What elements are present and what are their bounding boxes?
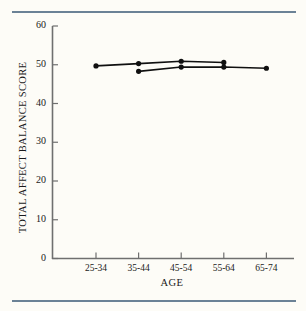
data-point-marker: [264, 66, 269, 71]
series-line: [139, 67, 267, 71]
x-tick-label: 25-34: [73, 263, 119, 273]
data-point-marker: [179, 64, 184, 69]
y-tick-label: 0: [20, 252, 46, 263]
x-tick-label: 55-64: [201, 263, 247, 273]
series-line: [96, 61, 224, 66]
data-point-marker: [221, 64, 226, 69]
figure-container: TOTAL AFFECT BALANCE SCORE AGE 010203040…: [0, 0, 306, 311]
y-tick-label: 40: [20, 97, 46, 108]
y-tick-label: 20: [20, 174, 46, 185]
data-point-marker: [136, 69, 141, 74]
y-tick-label: 50: [20, 58, 46, 69]
x-tick-label: 35-44: [116, 263, 162, 273]
data-series-layer: [93, 59, 269, 74]
data-point-marker: [179, 59, 184, 64]
x-tick-marks: [96, 253, 266, 259]
y-tick-label: 30: [20, 135, 46, 146]
y-tick-label: 60: [20, 19, 46, 30]
data-point-marker: [93, 63, 98, 68]
x-tick-label: 45-54: [158, 263, 204, 273]
y-tick-marks: [53, 26, 59, 259]
y-tick-label: 10: [20, 213, 46, 224]
data-point-marker: [221, 60, 226, 65]
data-point-marker: [136, 61, 141, 66]
x-tick-label: 65-74: [243, 263, 289, 273]
